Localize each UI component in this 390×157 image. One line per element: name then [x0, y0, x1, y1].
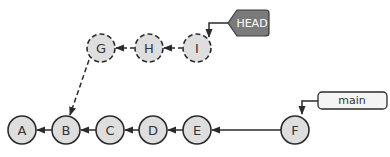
branch-ref-main[interactable]: main: [302, 92, 387, 114]
git-commit-diagram: A B C D E F G H: [0, 0, 390, 157]
head-ref[interactable]: HEAD: [209, 10, 269, 37]
commit-label: D: [148, 123, 158, 138]
commit-A[interactable]: A: [8, 116, 36, 144]
commit-E[interactable]: E: [183, 116, 211, 144]
commit-label: E: [193, 123, 201, 138]
commit-G[interactable]: G: [87, 34, 115, 62]
head-pointer-line: [209, 23, 228, 37]
commit-C[interactable]: C: [96, 116, 124, 144]
commit-label: H: [144, 41, 154, 56]
commit-label: I: [195, 41, 199, 56]
commit-F[interactable]: F: [281, 116, 309, 144]
commit-label: A: [18, 123, 27, 138]
commit-label: F: [291, 123, 298, 138]
edge-G-B: [70, 60, 89, 115]
branch-pointer-line: [302, 101, 318, 114]
detached-edges: [70, 48, 182, 115]
commit-D[interactable]: D: [139, 116, 167, 144]
head-label: HEAD: [236, 17, 267, 30]
commit-B[interactable]: B: [52, 116, 80, 144]
commit-H[interactable]: H: [135, 34, 163, 62]
commit-label: G: [96, 41, 106, 56]
detached-commits: G H I: [87, 34, 211, 62]
commit-label: B: [62, 123, 71, 138]
commit-label: C: [105, 123, 114, 138]
branch-label: main: [338, 94, 366, 107]
commit-I[interactable]: I: [183, 34, 211, 62]
